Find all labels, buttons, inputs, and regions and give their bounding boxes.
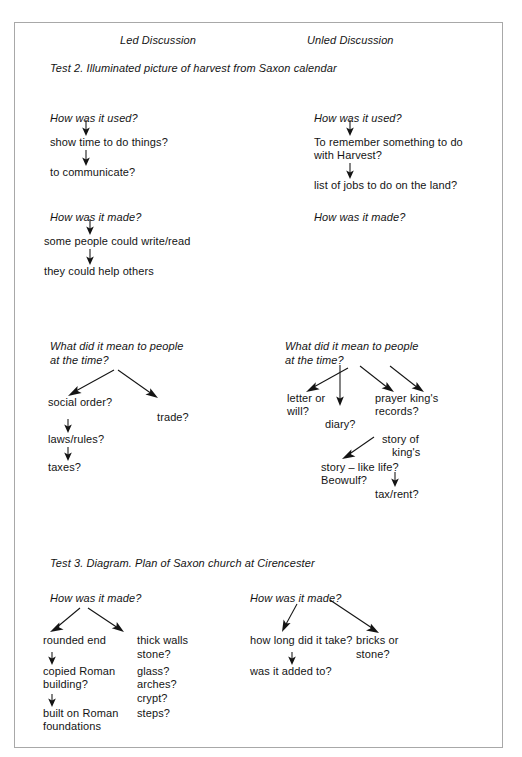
response-left-meaning-social-order: social order? <box>48 396 112 410</box>
response-left-meaning-trade: trade? <box>157 411 189 425</box>
prompt-right-meaning-line1: What did it mean to people <box>285 340 418 354</box>
response-t3-left-stone: stone? <box>137 648 171 662</box>
response-left-meaning-laws: laws/rules? <box>48 433 104 447</box>
column-header-led: Led Discussion <box>120 34 196 48</box>
prompt-t3-right-how-made: How was it made? <box>250 592 341 606</box>
response-t3-left-foundations: foundations <box>43 720 101 734</box>
response-t3-left-built-on-roman: built on Roman <box>43 707 118 721</box>
response-t3-left-steps: steps? <box>137 707 170 721</box>
response-left-meaning-taxes: taxes? <box>48 461 81 475</box>
response-right-used-1b: with Harvest? <box>314 149 382 163</box>
response-t3-right-bricks-or: bricks or <box>356 634 398 648</box>
response-left-used-2: to communicate? <box>50 166 135 180</box>
response-left-made-2: they could help others <box>44 265 154 279</box>
prompt-left-how-used: How was it used? <box>50 112 138 126</box>
prompt-left-how-made: How was it made? <box>50 211 141 225</box>
response-t3-left-glass: glass? <box>137 665 169 679</box>
section-title-test-3: Test 3. Diagram. Plan of Saxon church at… <box>50 557 315 571</box>
prompt-right-how-used: How was it used? <box>314 112 402 126</box>
response-left-made-1: some people could write/read <box>44 235 191 249</box>
response-left-used-1: show time to do things? <box>50 136 168 150</box>
response-right-meaning-records: records? <box>375 405 419 419</box>
response-right-meaning-diary: diary? <box>325 418 356 432</box>
response-right-meaning-kings: king's <box>392 446 420 460</box>
response-right-meaning-story-of: story of <box>382 433 419 447</box>
response-right-meaning-beowulf: Beowulf? <box>321 474 367 488</box>
prompt-t3-left-how-made: How was it made? <box>50 592 141 606</box>
response-t3-left-building: building? <box>43 678 88 692</box>
response-right-meaning-story-like-life: story – like life? <box>321 461 399 475</box>
response-t3-left-rounded-end: rounded end <box>43 634 106 648</box>
response-right-meaning-letter: letter or <box>287 392 325 406</box>
response-t3-right-added-to: was it added to? <box>250 665 332 679</box>
prompt-left-meaning-line1: What did it mean to people <box>50 340 183 354</box>
response-right-used-1a: To remember something to do <box>314 136 463 150</box>
response-t3-right-how-long: how long did it take? <box>250 634 352 648</box>
response-t3-left-crypt: crypt? <box>137 692 168 706</box>
prompt-right-meaning-line2: at the time? <box>285 354 344 368</box>
prompt-left-meaning-line2: at the time? <box>50 354 109 368</box>
response-right-meaning-tax-rent: tax/rent? <box>375 488 419 502</box>
response-t3-left-arches: arches? <box>137 678 177 692</box>
response-right-used-2: list of jobs to do on the land? <box>314 179 457 193</box>
section-title-test-2: Test 2. Illuminated picture of harvest f… <box>50 62 337 76</box>
column-header-unled: Unled Discussion <box>307 34 394 48</box>
response-t3-left-copied-roman: copied Roman <box>43 665 115 679</box>
response-t3-right-stone: stone? <box>356 648 390 662</box>
prompt-right-how-made: How was it made? <box>314 211 405 225</box>
response-right-meaning-will: will? <box>287 405 309 419</box>
response-right-meaning-prayer: prayer king's <box>375 392 438 406</box>
response-t3-left-thick-walls: thick walls <box>137 634 188 648</box>
